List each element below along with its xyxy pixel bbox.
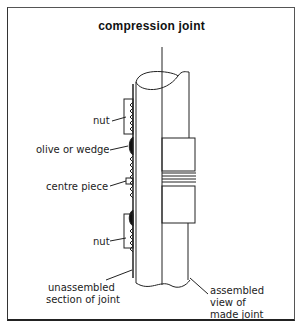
label-unassembled-2: section of joint [46, 294, 120, 306]
label-olive: olive or wedge [36, 144, 110, 156]
label-assembled-3: made joint [210, 309, 263, 321]
label-unassembled-1: unassembled [48, 282, 115, 294]
label-assembled-2: view of [210, 297, 246, 309]
label-nut-bottom: nut [93, 236, 110, 248]
label-assembled-1: assembled [210, 285, 264, 297]
label-centre-piece: centre piece [46, 181, 108, 193]
label-nut-top: nut [93, 115, 110, 127]
compression-joint-drawing [0, 0, 303, 330]
